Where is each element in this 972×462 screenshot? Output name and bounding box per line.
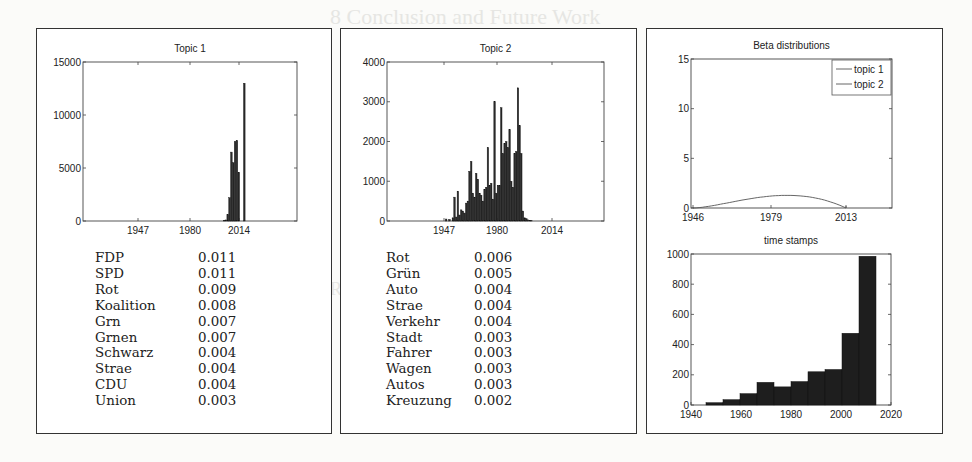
bar (462, 211, 464, 221)
word-probability: 0.002 (474, 393, 512, 409)
bar (492, 199, 494, 221)
bar (527, 220, 529, 221)
word-probability: 0.003 (474, 361, 512, 377)
x-tick-label: 1947 (127, 225, 150, 236)
y-tick-label: 0 (379, 216, 385, 227)
bar (808, 372, 825, 405)
word-probability: 0.011 (198, 250, 236, 266)
word-row: Union0.003 (95, 393, 236, 409)
word-probability: 0.004 (198, 345, 236, 361)
bar (511, 181, 513, 221)
bar (231, 152, 233, 221)
word-row: Verkehr0.004 (386, 314, 512, 330)
y-tick-label: 15 (678, 54, 690, 65)
bar (706, 403, 723, 405)
word-probability: 0.009 (198, 282, 236, 298)
y-tick-label: 800 (672, 279, 689, 290)
bar (524, 218, 526, 221)
word-row: Rot0.009 (95, 282, 236, 298)
bar (455, 217, 457, 221)
panel-topic-1: Topic 1050001000015000194719802014 FDP0.… (36, 28, 332, 434)
bar (223, 220, 225, 221)
bar (522, 211, 524, 221)
word-row: Wagen0.003 (386, 361, 512, 377)
bar (496, 193, 498, 221)
word-row: Koalition0.008 (95, 298, 236, 314)
chart-title: Topic 1 (174, 43, 206, 54)
y-tick-label: 1000 (667, 249, 690, 260)
word: Kreuzung (386, 393, 474, 409)
bar (487, 147, 489, 221)
bar (454, 197, 456, 221)
word: Grün (386, 266, 474, 282)
word: Auto (386, 282, 474, 298)
plot-area (83, 62, 297, 221)
legend-label: topic 2 (854, 79, 884, 90)
chart-title: Topic 2 (480, 43, 512, 54)
bar (526, 219, 528, 221)
word: Schwarz (95, 345, 198, 361)
y-tick-label: 15000 (53, 57, 81, 68)
bar (470, 161, 472, 221)
bar (842, 333, 859, 405)
bar (479, 193, 481, 221)
x-tick-label: 2014 (541, 225, 564, 236)
bar (474, 197, 476, 221)
bar (472, 193, 474, 221)
word-probability: 0.003 (198, 393, 236, 409)
x-tick-label: 1947 (433, 225, 456, 236)
word-row: Kreuzung0.002 (386, 393, 512, 409)
y-tick-label: 0 (75, 216, 81, 227)
word-row: SPD0.011 (95, 266, 236, 282)
word-probability: 0.004 (198, 361, 236, 377)
panel-beta-and-timestamps: Beta distributions051015194619792013topi… (646, 28, 943, 434)
word-row: Grün0.005 (386, 266, 512, 282)
bar (507, 147, 509, 221)
word-row: Rot0.006 (386, 250, 512, 266)
y-tick-label: 3000 (363, 96, 386, 107)
word-row: Strae0.004 (386, 298, 512, 314)
word-row: Fahrer0.003 (386, 345, 512, 361)
word: Wagen (386, 361, 474, 377)
y-tick-label: 4000 (363, 57, 386, 68)
word-row: Auto0.004 (386, 282, 512, 298)
word: Rot (95, 282, 198, 298)
word-probability: 0.003 (474, 345, 512, 361)
word-row: Strae0.004 (95, 361, 236, 377)
y-tick-label: 10 (678, 103, 690, 114)
word-row: Schwarz0.004 (95, 345, 236, 361)
bar (519, 126, 521, 221)
bar (234, 142, 236, 222)
x-tick-label: 1979 (760, 212, 783, 223)
bar (791, 382, 808, 405)
word: FDP (95, 250, 198, 266)
bar (825, 370, 842, 405)
bar (509, 130, 511, 221)
bar (477, 179, 479, 221)
bar (499, 185, 501, 221)
word-probability: 0.005 (474, 266, 512, 282)
word: Stadt (386, 330, 474, 346)
x-tick-label: 2020 (880, 409, 903, 420)
word-probability: 0.004 (474, 314, 512, 330)
bar (521, 153, 523, 221)
topic-1-word-list: FDP0.011SPD0.011Rot0.009Koalition0.008Gr… (95, 250, 236, 409)
bar (229, 198, 231, 221)
x-tick-label: 2014 (228, 225, 251, 236)
bar (859, 256, 876, 405)
word-probability: 0.003 (474, 377, 512, 393)
y-tick-label: 5000 (59, 163, 82, 174)
word: Strae (386, 298, 474, 314)
bar (485, 187, 487, 221)
bar (494, 102, 496, 221)
word-probability: 0.007 (198, 330, 236, 346)
word: Autos (386, 377, 474, 393)
topic-2-histogram: Topic 201000200030004000194719802014 (341, 29, 636, 239)
bar (225, 220, 227, 221)
word: Koalition (95, 298, 198, 314)
bar (238, 172, 240, 221)
word-probability: 0.007 (198, 314, 236, 330)
bar (501, 108, 503, 221)
bar (244, 83, 246, 221)
bar (502, 153, 504, 221)
